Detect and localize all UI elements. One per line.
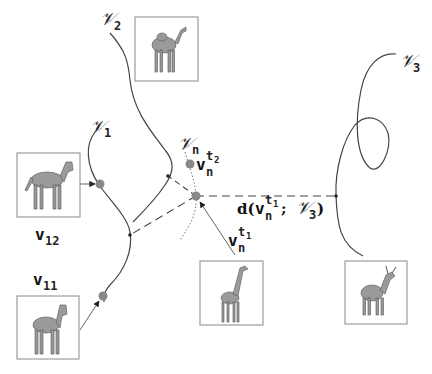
thumbnail-camel [135, 17, 198, 81]
label-v12: v 12 [35, 225, 59, 248]
svg-text:n: n [238, 241, 245, 255]
svg-text:d(: d( [237, 200, 255, 218]
diagram-canvas: 𝒱 2 𝒱 1 𝒱 3 𝒱 n v n t 2 v n t 1 v [0, 0, 432, 374]
svg-text:v: v [35, 225, 45, 244]
svg-text:t: t [238, 225, 245, 239]
point-vn-t2 [186, 160, 195, 169]
svg-text:v: v [33, 270, 43, 289]
label-v1: 𝒱 1 [90, 116, 111, 140]
svg-text:n: n [265, 209, 272, 223]
svg-text:3: 3 [309, 208, 316, 222]
point-v12 [96, 180, 105, 189]
label-vn-t2: v n t 2 [196, 149, 219, 179]
curve-v1 [88, 132, 130, 302]
svg-text:): ) [317, 200, 324, 218]
svg-text:v: v [255, 199, 265, 218]
label-v2: 𝒱 2 [100, 8, 121, 33]
svg-text:3: 3 [413, 61, 420, 75]
svg-text:;: ; [281, 200, 287, 218]
svg-text:1: 1 [246, 231, 251, 241]
svg-text:11: 11 [43, 279, 57, 293]
svg-text:t: t [265, 193, 272, 207]
svg-text:12: 12 [45, 234, 59, 248]
label-vn: 𝒱 n [178, 133, 199, 157]
diagram-svg: 𝒱 2 𝒱 1 𝒱 3 𝒱 n v n t 2 v n t 1 v [0, 0, 432, 374]
svg-text:n: n [206, 165, 213, 179]
point-v11 [99, 292, 108, 301]
label-distance: d( v n t 1 ; 𝒱 3 ) [237, 193, 324, 223]
nearest-point-v1 [128, 233, 132, 237]
nearest-point-v3 [334, 194, 338, 198]
nearest-point-v2 [166, 174, 170, 178]
thumbnail-horse-top [17, 153, 80, 217]
thumbnail-giraffe [200, 261, 263, 325]
svg-text:1: 1 [273, 199, 278, 209]
curve-v3 [336, 54, 396, 256]
arrow-to-v11 [80, 301, 99, 330]
svg-text:2: 2 [214, 155, 219, 165]
label-v3: 𝒱 3 [400, 50, 421, 75]
svg-text:v: v [228, 231, 238, 250]
thumbnail-goat [345, 261, 407, 324]
svg-text:v: v [196, 155, 206, 174]
svg-text:1: 1 [104, 126, 111, 140]
point-vn-t1 [192, 192, 201, 201]
label-v11: v 11 [33, 270, 57, 293]
dashed-to-v2 [168, 176, 196, 196]
svg-text:2: 2 [114, 19, 121, 33]
svg-text:t: t [206, 149, 213, 163]
thumbnail-horse-bottom [17, 296, 79, 359]
